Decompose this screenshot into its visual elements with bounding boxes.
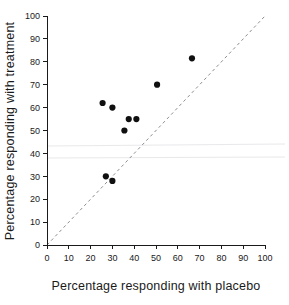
y-tick-label: 10 bbox=[30, 217, 40, 227]
x-tick-label: 40 bbox=[129, 253, 139, 263]
scatter-plot-figure: 0102030405060708090100 01020304050607080… bbox=[0, 0, 289, 305]
y-tick-label: 40 bbox=[30, 149, 40, 159]
y-tick-label: 80 bbox=[30, 57, 40, 67]
x-tick-label: 100 bbox=[257, 253, 272, 263]
x-tick-label: 10 bbox=[64, 253, 74, 263]
y-tick-label: 60 bbox=[30, 103, 40, 113]
x-tick-label: 0 bbox=[44, 253, 49, 263]
y-axis: 0102030405060708090100 bbox=[25, 11, 47, 250]
data-point-marker bbox=[133, 116, 139, 122]
x-tick-label: 90 bbox=[238, 253, 248, 263]
data-point-marker bbox=[189, 55, 195, 61]
data-point-marker bbox=[109, 178, 115, 184]
y-tick-label: 30 bbox=[30, 172, 40, 182]
data-points-layer bbox=[99, 55, 195, 184]
x-tick-label: 50 bbox=[151, 253, 161, 263]
data-point-marker bbox=[121, 127, 127, 133]
x-tick-label: 30 bbox=[107, 253, 117, 263]
data-point-marker bbox=[126, 116, 132, 122]
x-tick-label: 60 bbox=[173, 253, 183, 263]
y-axis-title: Percentage responding with treatment bbox=[3, 21, 17, 240]
data-point-marker bbox=[154, 82, 160, 88]
x-axis: 0102030405060708090100 bbox=[44, 245, 272, 263]
y-tick-label: 100 bbox=[25, 11, 40, 21]
y-tick-label: 20 bbox=[30, 194, 40, 204]
x-tick-label: 20 bbox=[86, 253, 96, 263]
scan-artifacts bbox=[47, 144, 285, 158]
reference-line-equality bbox=[47, 16, 265, 245]
data-point-marker bbox=[109, 105, 115, 111]
x-tick-label: 80 bbox=[216, 253, 226, 263]
x-tick-label: 70 bbox=[195, 253, 205, 263]
y-tick-label: 90 bbox=[30, 34, 40, 44]
y-tick-label: 0 bbox=[35, 240, 40, 250]
y-tick-label: 50 bbox=[30, 126, 40, 136]
data-point-marker bbox=[99, 100, 105, 106]
data-point-marker bbox=[103, 173, 109, 179]
x-axis-title: Percentage responding with placebo bbox=[51, 279, 260, 293]
y-tick-label: 70 bbox=[30, 80, 40, 90]
